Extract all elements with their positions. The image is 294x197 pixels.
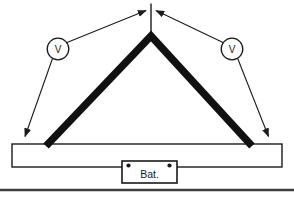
left-base-pointer-arrow <box>25 59 53 137</box>
right-voltmeter-label: V <box>229 44 236 55</box>
right-apex-pointer-arrow <box>156 11 223 43</box>
left-voltmeter-label: V <box>55 44 62 55</box>
circuit-diagram-canvas: Bat. V V <box>0 0 294 197</box>
battery-terminal-dot-right <box>167 163 171 167</box>
left-apex-pointer-arrow <box>67 11 146 43</box>
battery-label: Bat. <box>140 168 159 180</box>
right-base-pointer-arrow <box>238 58 269 137</box>
battery-terminal-dot-left <box>126 163 130 167</box>
circuit-diagram-figure: Bat. V V <box>0 0 294 197</box>
